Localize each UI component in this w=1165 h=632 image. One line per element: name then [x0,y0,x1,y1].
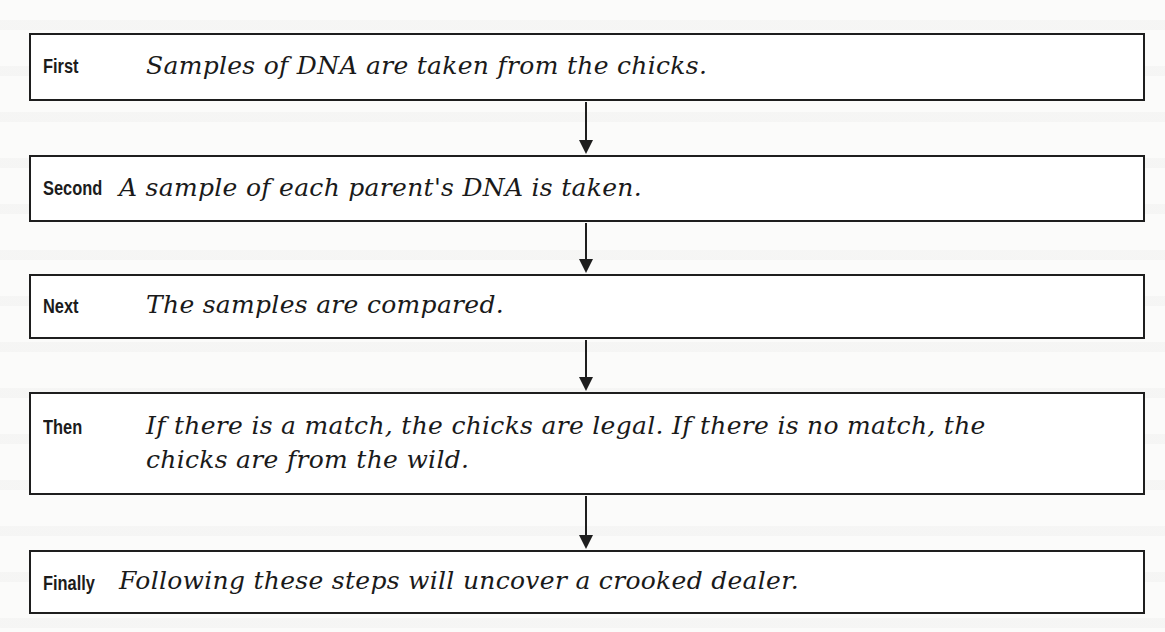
step-label: Second [43,177,102,200]
step-text: The samples are compared. [146,287,504,323]
step-text-line-1: If there is a match, the chicks are lega… [146,408,986,444]
step-text: Samples of DNA are taken from the chicks… [146,48,707,84]
step-box-finally: Finally Following these steps will uncov… [29,550,1145,614]
step-box-first: First Samples of DNA are taken from the … [29,33,1145,101]
down-arrow-icon [579,535,593,549]
connector-line [585,340,587,378]
step-text-line-2: chicks are from the wild. [146,442,469,478]
down-arrow-icon [579,259,593,273]
step-box-second: Second A sample of each parent's DNA is … [29,155,1145,222]
down-arrow-icon [579,140,593,154]
step-label: Finally [43,572,95,595]
step-box-then: Then If there is a match, the chicks are… [29,392,1145,495]
connector-line [585,223,587,261]
step-label: First [43,55,79,78]
step-label: Then [43,416,82,439]
step-label: Next [43,295,79,318]
connector-line [585,102,587,142]
step-box-next: Next The samples are compared. [29,274,1145,339]
connector-line [585,496,587,536]
step-text: Following these steps will uncover a cro… [119,563,799,599]
step-text: A sample of each parent's DNA is taken. [119,170,642,206]
down-arrow-icon [579,377,593,391]
